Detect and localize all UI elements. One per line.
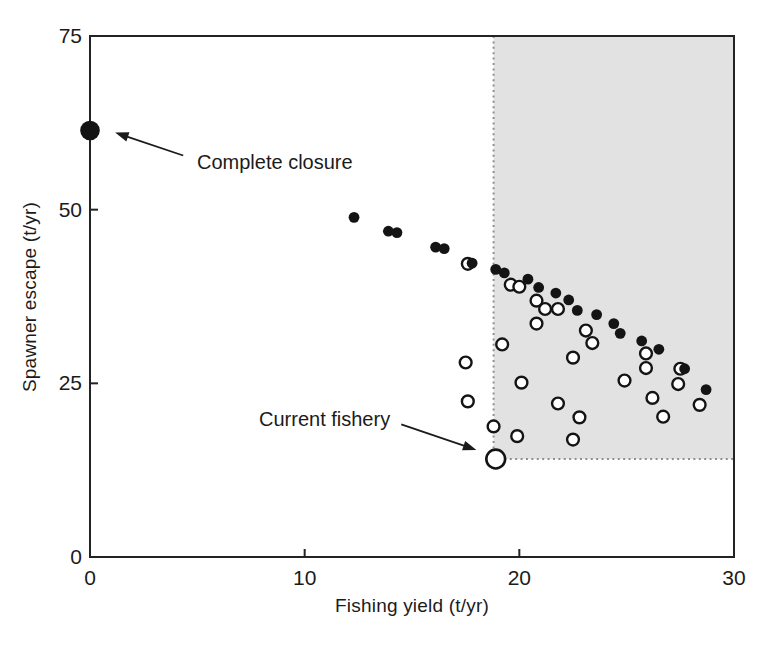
- filled-circle-point: [467, 258, 478, 269]
- annotation-arrow-head: [115, 132, 129, 141]
- y-tick-label: 75: [59, 24, 82, 47]
- annotation-complete-closure: Complete closure: [197, 151, 353, 174]
- x-tick-label: 0: [84, 566, 96, 589]
- filled-circle-point: [550, 288, 561, 299]
- open-circle-point: [496, 339, 508, 351]
- annotation-arrow-line: [126, 136, 184, 155]
- filled-circle-point: [653, 344, 664, 355]
- open-circle-point: [511, 430, 523, 442]
- filled-circle-point: [608, 318, 619, 329]
- scatter-plot-figure: 01020300255075 Fishing yield (t/yr) Spaw…: [0, 0, 771, 645]
- open-circle-point: [567, 352, 579, 364]
- open-circle-point: [552, 398, 564, 410]
- open-circle-point: [640, 362, 652, 374]
- shaded-region: [494, 36, 734, 459]
- open-circle-point: [567, 434, 579, 446]
- filled-circle-point: [392, 227, 403, 238]
- annotation-current-fishery: Current fishery: [259, 408, 390, 431]
- current-fishery-point: [486, 450, 505, 469]
- open-circle-point: [619, 375, 631, 387]
- filled-circle-point: [636, 336, 647, 347]
- filled-circle-point: [533, 282, 544, 293]
- filled-circle-point: [563, 295, 574, 306]
- filled-circle-point: [523, 274, 534, 285]
- plot-canvas: 01020300255075: [0, 0, 771, 645]
- open-circle-point: [694, 399, 706, 411]
- open-circle-point: [539, 303, 551, 315]
- open-circle-point: [574, 411, 586, 423]
- open-circle-point: [462, 395, 474, 407]
- filled-circle-point: [591, 309, 602, 320]
- filled-circle-point: [349, 212, 360, 223]
- filled-circle-point: [439, 243, 450, 254]
- y-axis-title: Spawner escape (t/yr): [19, 202, 41, 392]
- open-circle-point: [552, 303, 564, 315]
- y-tick-label: 50: [59, 198, 82, 221]
- filled-circle-point: [572, 305, 583, 316]
- open-circle-point: [580, 325, 592, 337]
- x-tick-label: 10: [293, 566, 316, 589]
- x-tick-label: 30: [722, 566, 745, 589]
- y-tick-label: 0: [70, 545, 82, 568]
- open-circle-point: [657, 411, 669, 423]
- y-tick-label: 25: [59, 371, 82, 394]
- annotation-arrow-line: [401, 424, 466, 446]
- filled-circle-point: [679, 363, 690, 374]
- open-circle-point: [488, 421, 500, 433]
- x-tick-label: 20: [508, 566, 531, 589]
- filled-circle-point: [615, 328, 626, 339]
- open-circle-point: [672, 378, 684, 390]
- annotation-arrow-head: [462, 441, 476, 450]
- filled-circle-point: [499, 267, 510, 278]
- open-circle-point: [460, 357, 472, 369]
- x-axis-title: Fishing yield (t/yr): [90, 595, 734, 617]
- open-circle-point: [513, 281, 525, 293]
- open-circle-point: [516, 377, 528, 389]
- open-circle-point: [647, 392, 659, 404]
- open-circle-point: [640, 348, 652, 360]
- filled-circle-point: [701, 384, 712, 395]
- complete-closure-point: [80, 121, 100, 141]
- open-circle-point: [586, 337, 598, 349]
- open-circle-point: [531, 318, 543, 330]
